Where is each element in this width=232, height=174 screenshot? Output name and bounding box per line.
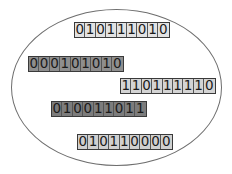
bit-cell: 1: [183, 79, 193, 93]
bit-cell: 1: [173, 79, 183, 93]
bit-cell: 0: [99, 135, 109, 149]
bit-cell: 0: [151, 135, 161, 149]
bitstring-5: 010110000: [77, 134, 173, 150]
bit-cell: 1: [104, 102, 114, 116]
bit-cell: 0: [130, 135, 140, 149]
bit-cell: 1: [102, 57, 112, 71]
bit-cell: 1: [94, 102, 104, 116]
bit-cell: 0: [112, 57, 122, 71]
bit-cell: 1: [121, 79, 131, 93]
bit-cell: 0: [29, 57, 39, 71]
bit-cell: 1: [148, 23, 158, 37]
bit-cell: 0: [161, 135, 171, 149]
bit-cell: 1: [135, 102, 145, 116]
bit-cell: 1: [88, 135, 98, 149]
bit-cell: 0: [83, 102, 93, 116]
bit-cell: 0: [142, 79, 152, 93]
bit-cell: 1: [109, 135, 119, 149]
bit-cell: 1: [127, 23, 137, 37]
bit-cell: 1: [81, 57, 91, 71]
bit-cell: 0: [39, 57, 49, 71]
bit-cell: 0: [73, 102, 83, 116]
bit-cell: 0: [52, 102, 62, 116]
bit-cell: 1: [163, 79, 173, 93]
bit-cell: 1: [106, 23, 116, 37]
bitstring-1: 010111010: [74, 22, 170, 38]
bit-cell: 0: [96, 23, 106, 37]
bit-cell: 1: [152, 79, 162, 93]
bit-cell: 0: [91, 57, 101, 71]
bit-cell: 1: [60, 57, 70, 71]
bit-cell: 1: [62, 102, 72, 116]
bit-cell: 1: [120, 135, 130, 149]
bit-cell: 0: [114, 102, 124, 116]
bitstring-4: 010011011: [51, 101, 147, 117]
bit-cell: 0: [78, 135, 88, 149]
bit-cell: 1: [117, 23, 127, 37]
bit-cell: 1: [131, 79, 141, 93]
bit-cell: 0: [137, 23, 147, 37]
bit-cell: 0: [140, 135, 150, 149]
bit-cell: 1: [194, 79, 204, 93]
bit-cell: 0: [204, 79, 214, 93]
bitstring-3: 110111110: [120, 78, 216, 94]
bitstring-2: 000101010: [28, 56, 124, 72]
bit-cell: 0: [71, 57, 81, 71]
bit-cell: 0: [158, 23, 168, 37]
bit-cell: 1: [85, 23, 95, 37]
bit-cell: 1: [125, 102, 135, 116]
bit-cell: 0: [75, 23, 85, 37]
bit-cell: 0: [50, 57, 60, 71]
